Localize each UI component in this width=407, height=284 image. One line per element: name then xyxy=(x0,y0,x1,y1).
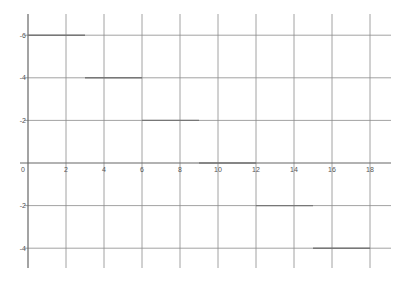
x-tick-label: 10 xyxy=(214,166,222,173)
y-tick-label: -4 xyxy=(20,74,26,81)
step-function-chart: 024681012141618 -6-4-2-2-4 xyxy=(0,0,407,284)
y-tick-label: -6 xyxy=(20,32,26,39)
x-tick-label: 18 xyxy=(366,166,374,173)
y-tick-labels: -6-4-2-2-4 xyxy=(20,32,26,252)
step-series xyxy=(28,35,370,248)
x-tick-label: 4 xyxy=(102,166,106,173)
x-tick-label: 2 xyxy=(64,166,68,173)
y-tick-label: -4 xyxy=(20,245,26,252)
x-tick-label: 16 xyxy=(328,166,336,173)
x-tick-label: 14 xyxy=(290,166,298,173)
x-tick-label: 12 xyxy=(252,166,260,173)
x-tick-labels: 024681012141618 xyxy=(21,166,374,173)
vertical-gridlines xyxy=(66,14,370,268)
horizontal-gridlines xyxy=(24,35,391,248)
x-tick-label: 8 xyxy=(178,166,182,173)
y-tick-label: -2 xyxy=(20,117,26,124)
axes xyxy=(20,14,391,268)
y-tick-label: -2 xyxy=(20,202,26,209)
x-tick-label: 0 xyxy=(21,166,25,173)
x-tick-label: 6 xyxy=(140,166,144,173)
